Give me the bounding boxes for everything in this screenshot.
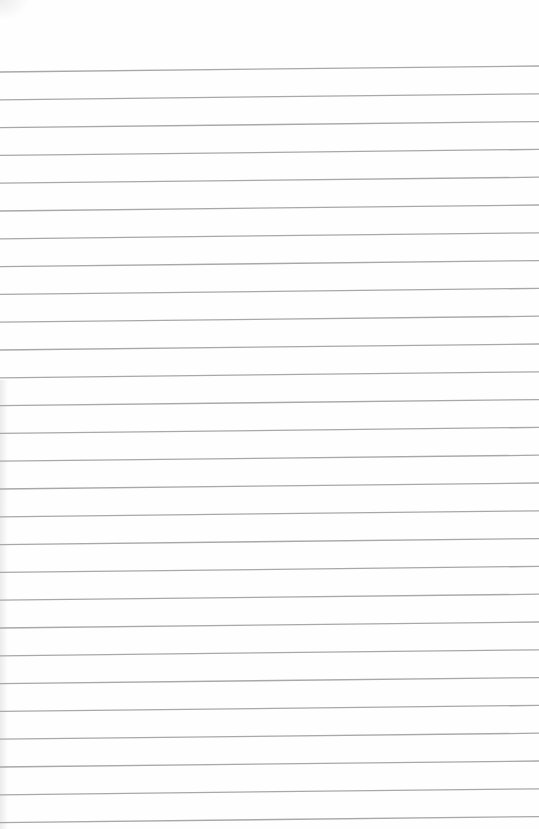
ruled-line (0, 233, 539, 239)
ruled-line (0, 678, 539, 684)
ruled-line (0, 622, 539, 628)
ruled-lines (0, 0, 539, 829)
ruled-line (0, 122, 539, 128)
ruled-line (0, 566, 539, 572)
ruled-line (0, 66, 539, 72)
ruled-line (0, 539, 539, 545)
ruled-line (0, 705, 539, 711)
ruled-line (0, 650, 539, 656)
ruled-line (0, 761, 539, 767)
ruled-line (0, 483, 539, 489)
ruled-line (0, 344, 539, 350)
ruled-line (0, 316, 539, 322)
ruled-line (0, 205, 539, 211)
ruled-line (0, 177, 539, 183)
ruled-line (0, 372, 539, 378)
ruled-line (0, 261, 539, 267)
ruled-line (0, 288, 539, 294)
ruled-line (0, 427, 539, 433)
ruled-line (0, 733, 539, 739)
ruled-line (0, 789, 539, 795)
lined-paper-sheet (0, 0, 539, 829)
ruled-line (0, 817, 539, 823)
ruled-line (0, 594, 539, 600)
ruled-line (0, 455, 539, 461)
ruled-line (0, 94, 539, 100)
ruled-line (0, 400, 539, 406)
ruled-line (0, 511, 539, 517)
ruled-line (0, 149, 539, 155)
